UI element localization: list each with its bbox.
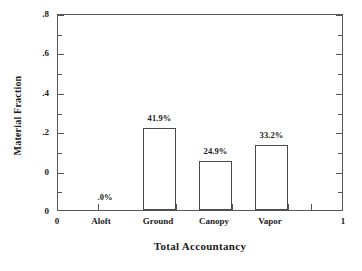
plot-area: .0% 41.9% 24.9% 33.2% xyxy=(57,14,343,211)
bar-value-canopy: 24.9% xyxy=(204,147,228,156)
x-tick-label-1: 1 xyxy=(341,217,346,226)
x-tick-label-aloft: Aloft xyxy=(91,217,111,226)
y-axis-tick-labels: .8 .6 .4 .2 0 0 xyxy=(0,0,57,271)
x-axis-tick-labels: 0 Aloft Ground Canopy Vapor 1 xyxy=(0,214,362,230)
bar-vapor xyxy=(255,145,288,210)
y-major-tick-right xyxy=(336,94,342,95)
y-major-tick xyxy=(58,133,64,134)
y-minor-tick xyxy=(58,114,62,115)
y-major-tick xyxy=(58,94,64,95)
y-major-tick-right xyxy=(336,133,342,134)
y-major-tick xyxy=(58,15,64,16)
y-minor-tick-right xyxy=(338,114,342,115)
y-minor-tick-right xyxy=(338,74,342,75)
y-tick-label: .4 xyxy=(42,88,49,97)
x-tick xyxy=(98,204,99,210)
y-major-tick xyxy=(58,54,64,55)
y-minor-tick xyxy=(58,74,62,75)
y-major-tick-right xyxy=(336,54,342,55)
bar-canopy xyxy=(199,161,232,210)
y-tick-label: .2 xyxy=(42,128,49,137)
bar-chart-figure: Material Fraction .8 .6 .4 .2 0 0 xyxy=(0,0,362,271)
y-major-tick-right xyxy=(336,15,342,16)
bar-value-aloft: .0% xyxy=(97,193,112,202)
x-tick xyxy=(176,204,177,210)
x-tick xyxy=(311,204,312,210)
x-tick-label-0: 0 xyxy=(55,217,60,226)
y-minor-tick-right xyxy=(338,153,342,154)
x-tick-label-canopy: Canopy xyxy=(199,217,229,226)
x-tick xyxy=(288,204,289,210)
bar-ground xyxy=(143,128,176,210)
y-minor-tick xyxy=(58,153,62,154)
y-tick-label: 0 xyxy=(45,167,50,176)
y-major-tick-right xyxy=(336,173,342,174)
y-minor-tick xyxy=(58,192,62,193)
x-axis-title: Total Accountancy xyxy=(57,240,343,252)
y-minor-tick-right xyxy=(338,35,342,36)
y-major-tick xyxy=(58,173,64,174)
bar-value-vapor: 33.2% xyxy=(260,131,284,140)
y-minor-tick-right xyxy=(338,192,342,193)
y-tick-label: .8 xyxy=(42,10,49,19)
y-tick-label: .6 xyxy=(42,49,49,58)
x-tick xyxy=(232,204,233,210)
y-minor-tick xyxy=(58,35,62,36)
x-tick-label-vapor: Vapor xyxy=(258,217,282,226)
bar-value-ground: 41.9% xyxy=(148,114,172,123)
x-tick-label-ground: Ground xyxy=(143,217,173,226)
